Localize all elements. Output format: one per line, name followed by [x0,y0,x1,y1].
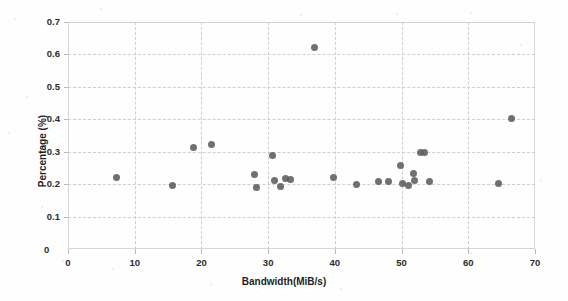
x-tick-label: 30 [248,258,288,268]
y-tick-label: 0.2 [20,179,60,189]
gridline-vertical [468,22,469,249]
y-tick-label: 0.3 [20,147,60,157]
x-tick-label: 60 [448,258,488,268]
data-point [169,182,176,189]
y-tick-label: 0.6 [20,50,60,60]
data-point [330,174,337,181]
texture-speck [540,180,542,182]
plot-area [68,22,535,249]
texture-speck [100,8,102,10]
gridline-vertical [135,22,136,249]
texture-speck [14,18,16,20]
y-tick-label: 0.4 [20,115,60,125]
x-tick-label: 50 [382,258,422,268]
data-point [251,171,258,178]
gridline-horizontal [68,119,535,120]
texture-speck [41,206,43,208]
gridline-vertical [268,22,269,249]
y-tick-mark [64,152,68,153]
data-point [410,170,417,177]
x-tick-label: 10 [115,258,155,268]
x-tick-label: 20 [181,258,221,268]
x-axis-label: Bandwidth(MiB/s) [0,276,568,287]
texture-speck [520,44,522,46]
x-tick-mark [135,249,136,254]
x-tick-mark [68,249,69,254]
gridline-horizontal [68,152,535,153]
scatter-chart: Percentage (%) Bandwidth(MiB/s) 0 0.10.2… [0,0,568,301]
texture-speck [26,96,28,98]
gridline-vertical [402,22,403,249]
y-tick-mark [64,87,68,88]
y-tick-mark [64,184,68,185]
x-tick-mark [268,249,269,254]
y-tick-mark [64,22,68,23]
texture-speck [470,252,472,254]
origin-label: 0 [44,244,49,255]
gridline-horizontal [68,54,535,55]
texture-speck [62,260,64,262]
x-tick-label: 0 [48,258,88,268]
texture-speck [300,14,302,16]
data-point [405,182,412,189]
data-point [113,174,120,181]
gridline-horizontal [68,217,535,218]
y-tick-label: 0.1 [20,212,60,222]
y-tick-label: 0.5 [20,82,60,92]
y-tick-mark [64,54,68,55]
gridline-vertical [335,22,336,249]
data-point [421,149,428,156]
texture-speck [396,13,398,15]
gridline-vertical [201,22,202,249]
texture-speck [210,284,212,286]
y-tick-mark [64,217,68,218]
y-tick-mark [64,119,68,120]
texture-speck [340,288,342,290]
x-tick-mark [535,249,536,254]
x-tick-label: 70 [515,258,555,268]
data-point [277,183,284,190]
y-tick-label: 0.7 [20,17,60,27]
gridline-horizontal [68,184,535,185]
texture-speck [470,12,472,14]
x-tick-label: 40 [315,258,355,268]
x-tick-mark [335,249,336,254]
texture-speck [8,132,10,134]
gridline-horizontal [68,22,535,23]
x-tick-mark [201,249,202,254]
texture-speck [112,268,114,270]
data-point [190,144,197,151]
x-tick-mark [402,249,403,254]
gridline-horizontal [68,87,535,88]
